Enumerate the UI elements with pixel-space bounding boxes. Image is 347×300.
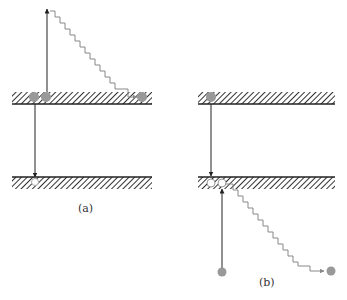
electron-circle <box>29 92 39 102</box>
panel-b <box>198 92 336 277</box>
electron-circle <box>327 267 336 276</box>
hole-circle <box>32 179 39 186</box>
panel-b-label: (b) <box>259 276 275 289</box>
relaxation-staircase-a <box>50 11 137 97</box>
upper-band-b <box>198 92 335 104</box>
panel-a <box>12 9 152 189</box>
electron-circle <box>218 268 227 277</box>
energy-level-diagram <box>0 0 347 300</box>
relaxation-staircase-b <box>226 184 324 271</box>
hole-circle <box>207 179 215 187</box>
panel-a-label: (a) <box>78 202 93 215</box>
electron-circle <box>206 92 216 102</box>
electron-circle <box>137 92 147 102</box>
hole-circle <box>218 179 226 187</box>
electron-circle <box>41 92 51 102</box>
